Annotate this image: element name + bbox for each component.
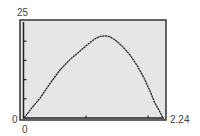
- plot-area: [20, 20, 166, 120]
- graph-plot: [0, 0, 200, 136]
